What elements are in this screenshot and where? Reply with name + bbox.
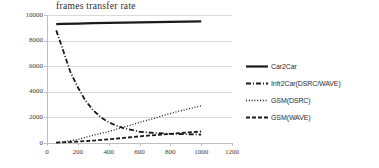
x-axis-tick-label: 0 [32,148,62,156]
x-axis-tick-label: 1200 [217,148,247,156]
x-axis-tick-mark [109,143,110,146]
legend-swatch-icon [246,96,268,105]
x-axis-tick-label: 600 [125,148,155,156]
series-line [56,30,201,134]
legend-label: Infr2Car(DSRC/WAVE) [271,80,341,87]
y-axis-tick-label: 6000 [0,62,43,70]
legend-label: Car2Car [271,63,297,70]
legend-swatch-icon [246,62,268,71]
frames-transfer-rate-chart: frames transfer rate 0200040006000800010… [0,0,379,168]
y-axis-tick-label: 2000 [0,113,43,121]
y-axis-tick-label: 8000 [0,36,43,44]
legend-label: GSM(DSRC) [271,97,311,104]
series-line [56,21,201,24]
x-axis-tick-mark [170,143,171,146]
legend-item[interactable]: GSM(DSRC) [246,92,378,109]
legend-item[interactable]: Infr2Car(DSRC/WAVE) [246,75,378,92]
legend-item[interactable]: GSM(WAVE) [246,109,378,126]
x-axis-tick-label: 1000 [186,148,216,156]
x-axis-tick-label: 800 [155,148,185,156]
legend-swatch-icon [246,79,268,88]
y-axis-tick-label: 10000 [0,11,43,19]
y-axis-tick-label: 0 [0,139,43,147]
chart-title: frames transfer rate [56,1,136,11]
legend-swatch-icon [246,113,268,122]
legend-label: GSM(WAVE) [271,114,311,121]
y-axis-tick-label: 4000 [0,87,43,95]
x-axis-tick-mark [232,143,233,146]
series-line [56,131,201,142]
x-axis-tick-mark [78,143,79,146]
x-axis-tick-label: 200 [63,148,93,156]
x-axis-tick-mark [47,143,48,146]
x-axis-tick-label: 400 [94,148,124,156]
legend-item[interactable]: Car2Car [246,58,378,75]
series-lines [47,15,232,143]
x-axis-tick-mark [201,143,202,146]
plot-area [47,15,232,143]
x-axis-tick-mark [140,143,141,146]
legend: Car2CarInfr2Car(DSRC/WAVE)GSM(DSRC)GSM(W… [246,58,378,126]
